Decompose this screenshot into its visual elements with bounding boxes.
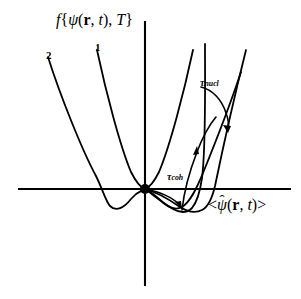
- y-axis-label-comma1: ,: [91, 11, 99, 28]
- y-axis-label-close-brace: }: [125, 11, 133, 28]
- tau-nucl-label: τnucl: [200, 78, 219, 88]
- origin-dot: [140, 184, 150, 194]
- y-axis-label-open-brace: {: [60, 11, 68, 28]
- y-axis-label: f{ψ(r, t), T}: [56, 12, 133, 28]
- y-axis-label-T: T: [116, 11, 125, 28]
- y-axis-label-psi: ψ: [68, 11, 78, 28]
- figure-canvas: [0, 0, 301, 299]
- curve-2-label: 2: [46, 50, 52, 61]
- x-axis-label-left-angle: <: [208, 196, 217, 213]
- x-axis-label-right-angle: >: [257, 196, 266, 213]
- y-axis-label-r: r: [83, 11, 90, 28]
- tau-coh-subscript: coh: [171, 173, 183, 182]
- axes-group: [18, 21, 291, 286]
- free-energy-landau-figure: f{ψ(r, t), T} <ˆψ(r, t)> 2 1 τnucl τcoh: [0, 0, 301, 299]
- x-axis-label: <ˆψ(r, t)>: [208, 197, 266, 213]
- tau-nucl-subscript: nucl: [204, 79, 218, 88]
- psi-hat-accent-icon: ˆ: [219, 192, 224, 207]
- tau-coh-label: τcoh: [167, 172, 183, 182]
- curve-1-label: 1: [95, 42, 101, 53]
